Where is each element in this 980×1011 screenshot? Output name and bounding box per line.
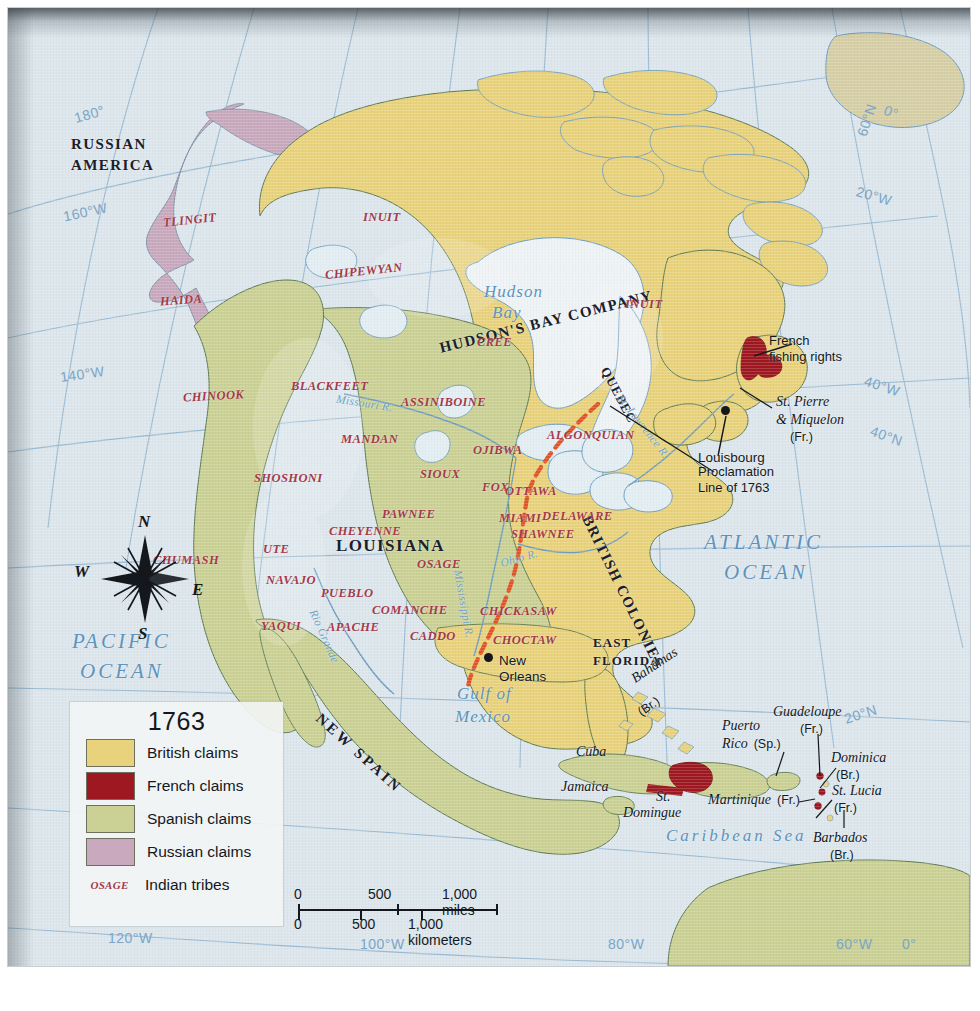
tribe-label-chinook: CHINOOK bbox=[183, 387, 245, 405]
tribe-label-navajo: NAVAJO bbox=[266, 573, 316, 588]
graticule-label-120w: 120°W bbox=[108, 930, 153, 946]
legend-label-spanish: Spanish claims bbox=[147, 810, 251, 828]
scale-miles-numbers: 0 500 1,000 miles bbox=[296, 886, 498, 903]
tribe-label-inuit-nw: INUIT bbox=[363, 210, 400, 225]
annotation-french-fishing-line2: fishing rights bbox=[769, 349, 842, 364]
island-label-puerto-rico-line1: Puerto bbox=[722, 718, 760, 734]
water-label-pacific-line2: OCEAN bbox=[80, 659, 164, 684]
scale-bar-line bbox=[298, 904, 498, 915]
compass-label-west: W bbox=[74, 562, 89, 582]
tribe-label-cree: CREE bbox=[477, 335, 512, 350]
island-label-st-pierre-line1: St. Pierre bbox=[776, 394, 829, 410]
compass-label-east: E bbox=[192, 580, 203, 600]
tribe-label-yaqui: YAQUI bbox=[261, 619, 301, 634]
tribe-label-apache: APACHE bbox=[327, 620, 379, 635]
scale-bar: 0 500 1,000 miles 0 500 1,000 kilometers bbox=[296, 886, 498, 933]
tribe-label-sioux: SIOUX bbox=[420, 467, 460, 482]
water-label-atlantic-line1: ATLANTIC bbox=[704, 530, 823, 555]
place-label-new-orleans-line2: Orleans bbox=[499, 669, 546, 684]
legend-sample-tribe: OSAGE bbox=[86, 879, 133, 891]
compass-rose: N S E W bbox=[86, 520, 204, 638]
tribe-label-blackfeet: BLACKFEET bbox=[291, 379, 368, 394]
island-label-barbados-owner: (Br.) bbox=[830, 847, 854, 863]
annotation-proclamation-line2: Line of 1763 bbox=[698, 480, 770, 495]
legend-label-french: French claims bbox=[147, 777, 243, 795]
legend-year: 1763 bbox=[70, 702, 283, 736]
island-label-cuba: Cuba bbox=[576, 744, 606, 760]
graticule-label-80w: 80°W bbox=[608, 936, 644, 952]
leader-line-barbados bbox=[836, 808, 852, 832]
legend-label-tribes: Indian tribes bbox=[145, 876, 229, 894]
tribe-label-chickasaw: CHICKASAW bbox=[480, 604, 557, 619]
legend-row-tribes: OSAGE Indian tribes bbox=[70, 868, 283, 901]
place-label-new-orleans-line1: New bbox=[499, 653, 526, 668]
compass-star-icon bbox=[86, 520, 204, 638]
water-label-atlantic-line2: OCEAN bbox=[724, 560, 808, 585]
legend-label-russian: Russian claims bbox=[147, 843, 251, 861]
water-label-caribbean-sea: Caribbean Sea bbox=[666, 826, 807, 846]
tribe-label-ute: UTE bbox=[263, 542, 289, 557]
tribe-label-shawnee: SHAWNEE bbox=[511, 527, 574, 542]
island-label-jamaica: Jamaica bbox=[561, 779, 608, 795]
island-label-barbados: Barbados bbox=[813, 830, 867, 846]
legend-label-british: British claims bbox=[147, 744, 238, 762]
tribe-label-inuit-ne: INUIT bbox=[625, 297, 662, 312]
scale-miles-tick-500: 500 bbox=[368, 886, 391, 902]
island-label-st-lucia: St. Lucia bbox=[832, 783, 882, 799]
leader-line-puerto-rico bbox=[768, 750, 794, 782]
island-label-st-pierre-line2: & Miquelon bbox=[776, 412, 844, 428]
scale-km-tick-0: 0 bbox=[294, 916, 302, 932]
scale-km-tick-500: 500 bbox=[352, 916, 375, 932]
tribe-label-ottawa: OTTAWA bbox=[505, 484, 557, 499]
annotation-french-fishing-line1: French bbox=[769, 333, 809, 348]
tribe-label-ojibwa: OJIBWA bbox=[473, 443, 522, 458]
tribe-label-assiniboine: ASSINIBOINE bbox=[401, 395, 486, 410]
leader-line-st-pierre bbox=[738, 386, 778, 412]
island-label-dominica: Dominica bbox=[831, 750, 886, 766]
tribe-label-miami: MIAMI bbox=[499, 511, 541, 526]
map-plate: 180° 160°W 140°W 120°W 100°W 80°W 60°W 0… bbox=[8, 8, 970, 966]
legend-swatch-british bbox=[86, 739, 135, 767]
legend-row-french: French claims bbox=[70, 769, 283, 802]
scale-km-unit: 1,000 kilometers bbox=[408, 916, 498, 948]
water-label-hudson-bay-line1: Hudson bbox=[484, 282, 543, 302]
region-label-russian-america-line1: RUSSIAN bbox=[71, 136, 147, 153]
water-label-gulf-line2: Mexico bbox=[455, 707, 511, 727]
legend-row-spanish: Spanish claims bbox=[70, 802, 283, 835]
leader-line-st-lucia bbox=[810, 798, 836, 822]
legend-row-british: British claims bbox=[70, 736, 283, 769]
graticule-label-60w: 60°W bbox=[836, 936, 872, 952]
water-label-gulf-line1: Gulf of bbox=[457, 684, 512, 704]
tribe-label-choctaw: CHOCTAW bbox=[493, 633, 556, 648]
tribe-label-pawnee: PAWNEE bbox=[382, 507, 435, 522]
water-label-hudson-bay-line2: Bay bbox=[492, 303, 521, 323]
tribe-label-caddo: CADDO bbox=[410, 629, 456, 644]
tribe-label-haida: HAIDA bbox=[160, 292, 203, 310]
tribe-label-mandan: MANDAN bbox=[341, 432, 398, 447]
map-page: 180° 160°W 140°W 120°W 100°W 80°W 60°W 0… bbox=[0, 0, 980, 1011]
tribe-label-delaware: DELAWARE bbox=[542, 509, 613, 524]
legend-swatch-spanish bbox=[86, 805, 135, 833]
annotation-proclamation-line1: Proclamation bbox=[698, 464, 774, 479]
graticule-label-100w: 100°W bbox=[360, 936, 405, 952]
scale-miles-tick-0: 0 bbox=[294, 886, 302, 902]
scale-km-numbers: 0 500 1,000 kilometers bbox=[296, 916, 498, 933]
legend-swatch-russian bbox=[86, 838, 135, 866]
island-label-st-domingue-line2: Domingue bbox=[623, 805, 681, 821]
island-label-martinique: Martinique(Fr.) bbox=[708, 792, 800, 808]
tribe-label-cheyenne: CHEYENNE bbox=[329, 524, 401, 539]
compass-label-north: N bbox=[138, 512, 150, 532]
map-legend: 1763 British claims French claims Spanis… bbox=[70, 702, 283, 926]
tribe-label-pueblo: PUEBLO bbox=[321, 586, 373, 601]
island-label-guadeloupe: Guadeloupe bbox=[773, 704, 841, 720]
island-label-st-pierre-owner: (Fr.) bbox=[790, 429, 813, 445]
legend-swatch-french bbox=[86, 772, 135, 800]
graticule-label-0-bottom: 0° bbox=[902, 936, 916, 952]
region-label-east-florida-line1: EAST bbox=[593, 635, 631, 651]
tribe-label-shoshoni: SHOSHONI bbox=[254, 471, 323, 486]
legend-row-russian: Russian claims bbox=[70, 835, 283, 868]
tribe-label-comanche: COMANCHE bbox=[372, 603, 447, 618]
region-label-russian-america-line2: AMERICA bbox=[71, 157, 154, 174]
region-label-louisiana: LOUISIANA bbox=[336, 536, 445, 556]
island-label-st-domingue-line1: St. bbox=[656, 789, 670, 805]
